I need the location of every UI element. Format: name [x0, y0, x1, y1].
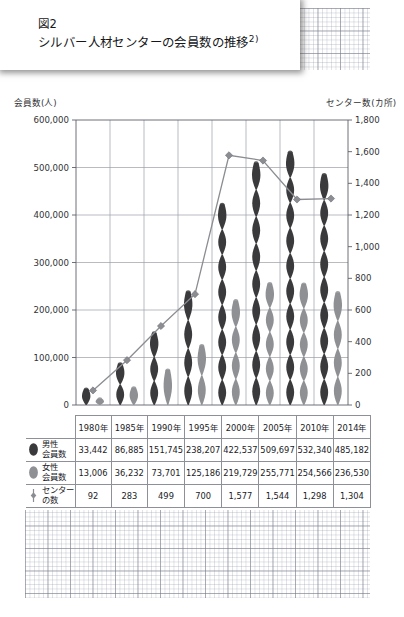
cell-1-5: 255,771 — [259, 461, 296, 484]
cell-2-7: 1,304 — [333, 484, 370, 507]
left-axis-tick: 200,000 — [33, 305, 69, 315]
right-axis-tick: 800 — [355, 273, 371, 283]
table-row: 女性会員数13,00636,23273,701125,186219,729255… — [26, 461, 371, 484]
bar-female-2000年 — [232, 299, 240, 405]
bar-male-2005年 — [252, 161, 260, 405]
cell-0-2: 151,745 — [147, 438, 184, 461]
row-label-2: センターの数 — [26, 484, 75, 507]
right-axis-tick: 0 — [355, 400, 360, 410]
left-axis-tick: 0 — [64, 400, 69, 410]
bar-male-1990年 — [150, 331, 158, 405]
bar-female-2014年 — [334, 291, 342, 405]
cell-0-3: 238,207 — [185, 438, 222, 461]
line-marker-2014年 — [327, 195, 334, 202]
cell-2-6: 1,298 — [296, 484, 333, 507]
row-label-text: センターの数 — [42, 486, 74, 505]
cell-1-0: 13,006 — [75, 461, 111, 484]
figure-number: 図2 — [38, 16, 259, 33]
table-header-year-2000年: 2000年 — [222, 416, 259, 439]
table-header-year-2010年: 2010年 — [296, 416, 333, 439]
cell-0-5: 509,697 — [259, 438, 296, 461]
table-header-row: 1980年1985年1990年1995年2000年2005年2010年2014年 — [26, 416, 371, 439]
bar-male-2000年 — [218, 203, 226, 405]
figure-title-text: シルバー人材センターの会員数の推移 — [38, 35, 249, 50]
bar-female-2005年 — [266, 282, 274, 405]
cell-1-1: 36,232 — [111, 461, 147, 484]
cell-1-7: 236,530 — [333, 461, 370, 484]
left-axis-tick: 600,000 — [33, 115, 69, 125]
left-axis-tick: 100,000 — [33, 353, 69, 363]
cell-1-3: 125,186 — [185, 461, 222, 484]
chart-svg: 600,000500,000400,000300,000200,000100,0… — [0, 70, 404, 415]
cell-2-5: 1,544 — [259, 484, 296, 507]
table-header-year-1985年: 1985年 — [111, 416, 147, 439]
right-axis-tick: 400 — [355, 337, 371, 347]
bar-female-2010年 — [300, 282, 308, 405]
cell-1-4: 219,729 — [222, 461, 259, 484]
table-header-year-1990年: 1990年 — [147, 416, 184, 439]
cell-2-4: 1,577 — [222, 484, 259, 507]
gray-ellipse-marker — [28, 465, 39, 480]
bar-female-1980年 — [96, 397, 104, 405]
page-title: シルバー人材センターの会員数の推移2) — [38, 33, 259, 52]
right-axis-tick: 600 — [355, 305, 371, 315]
table-header-year-2014年: 2014年 — [333, 416, 370, 439]
cell-0-1: 86,885 — [111, 438, 147, 461]
bar-male-2014年 — [320, 173, 328, 405]
paper-margin-bottom — [0, 598, 404, 617]
cell-0-0: 33,442 — [75, 438, 111, 461]
table-body: 男性会員数33,44286,885151,745238,207422,53750… — [26, 438, 371, 507]
cell-0-7: 485,182 — [333, 438, 370, 461]
dark-ellipse-marker — [28, 442, 39, 457]
table-header-year-2005年: 2005年 — [259, 416, 296, 439]
cell-0-6: 532,340 — [296, 438, 333, 461]
data-table: 1980年1985年1990年1995年2000年2005年2010年2014年… — [26, 415, 371, 508]
left-axis-tick: 300,000 — [33, 258, 69, 268]
table-header-year-1995年: 1995年 — [185, 416, 222, 439]
table-header-year-1980年: 1980年 — [75, 416, 111, 439]
cell-2-0: 92 — [75, 484, 111, 507]
bar-female-1985年 — [130, 386, 138, 405]
right-axis-tick: 1,600 — [355, 147, 380, 157]
table-row: 男性会員数33,44286,885151,745238,207422,53750… — [26, 438, 371, 461]
right-axis-tick: 1,800 — [355, 115, 380, 125]
figure-caption: 図2 シルバー人材センターの会員数の推移2) — [38, 16, 259, 52]
cell-2-2: 499 — [147, 484, 184, 507]
bar-male-1995年 — [184, 290, 192, 405]
cell-2-3: 700 — [185, 484, 222, 507]
header-corner-cell — [26, 416, 75, 439]
bar-female-1995年 — [198, 344, 206, 405]
left-axis-tick: 400,000 — [33, 210, 69, 220]
right-axis-tick: 1,200 — [355, 210, 380, 220]
left-axis-tick: 500,000 — [33, 163, 69, 173]
row-label-text: 男性会員数 — [42, 440, 66, 459]
right-axis-tick: 200 — [355, 368, 371, 378]
row-label-1: 女性会員数 — [26, 461, 75, 484]
line-marker-2000年 — [225, 152, 232, 159]
right-axis-tick: 1,400 — [355, 178, 380, 188]
footnote-marker: 2) — [249, 34, 259, 44]
table-row: センターの数922834997001,5771,5441,2981,304 — [26, 484, 371, 507]
row-label-0: 男性会員数 — [26, 438, 75, 461]
row-label-text: 女性会員数 — [42, 463, 66, 482]
right-axis-tick: 1,000 — [355, 242, 380, 252]
line-diamond-marker — [28, 488, 39, 503]
cell-1-6: 254,566 — [296, 461, 333, 484]
cell-0-4: 422,537 — [222, 438, 259, 461]
bar-male-1980年 — [82, 388, 90, 405]
cell-2-1: 283 — [111, 484, 147, 507]
cell-1-2: 73,701 — [147, 461, 184, 484]
bar-female-1990年 — [164, 368, 172, 405]
chart-canvas: 会員数(人) センター数(カ所) 600,000500,000400,00030… — [0, 70, 404, 415]
